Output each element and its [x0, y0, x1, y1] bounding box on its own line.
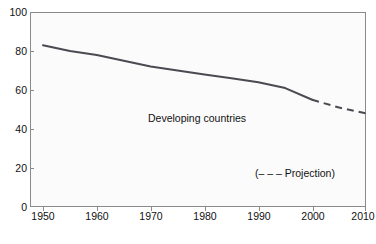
x-axis-labels: 1950 1960 1970 1980 1990 2000 2010	[0, 210, 376, 226]
line-projection	[312, 100, 366, 114]
chart-figure: 100 80 60 40 20 0 1950 1960 1970 1980 19…	[0, 0, 376, 244]
annotation-series-label: Developing countries	[148, 112, 246, 124]
x-axis-label-1970: 1970	[139, 210, 162, 222]
y-axis-label-100: 100	[9, 6, 27, 18]
chart-title	[0, 0, 376, 2]
y-axis-label-80: 80	[15, 45, 27, 57]
line-developing-countries	[43, 45, 312, 100]
x-axis-label-1960: 1960	[85, 210, 108, 222]
x-axis-label-2010: 2010	[351, 210, 374, 222]
y-axis-labels: 100 80 60 40 20 0	[0, 12, 27, 207]
x-axis-label-1990: 1990	[247, 210, 270, 222]
x-axis-label-1980: 1980	[193, 210, 216, 222]
x-axis-label-2000: 2000	[301, 210, 324, 222]
annotation-projection-legend: (– – – Projection)	[255, 167, 335, 179]
x-axis-label-1950: 1950	[31, 210, 54, 222]
y-axis-label-40: 40	[15, 123, 27, 135]
y-axis-label-60: 60	[15, 84, 27, 96]
y-axis-label-20: 20	[15, 162, 27, 174]
